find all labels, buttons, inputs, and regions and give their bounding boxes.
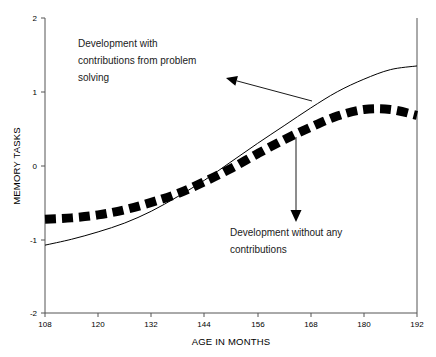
- x-tick-label-108: 108: [38, 320, 52, 329]
- y-tick-label-m1: -1: [30, 236, 38, 245]
- x-tick-label-180: 180: [357, 320, 371, 329]
- y-tick-label-1: 1: [33, 88, 38, 97]
- x-tick-label-132: 132: [144, 320, 158, 329]
- chart-canvas: 2 1 0 -1 -2 108 120 132 144 156 168 180 …: [0, 0, 436, 357]
- annotation-upper-line-3: solving: [78, 72, 109, 83]
- y-tick-label-0: 0: [33, 162, 38, 171]
- annotation-lower-line-2: contributions: [230, 244, 287, 255]
- annotation-lower-line-1: Development without any: [230, 227, 342, 238]
- annotation-upper-line-1: Development with: [78, 38, 157, 49]
- x-tick-label-168: 168: [304, 320, 318, 329]
- x-tick-label-156: 156: [251, 320, 265, 329]
- y-axis-title: MEMORY TASKS: [11, 127, 22, 205]
- annotation-upper-line-2: contributions from problem: [78, 55, 196, 66]
- chart-figure: 2 1 0 -1 -2 108 120 132 144 156 168 180 …: [0, 0, 436, 357]
- x-tick-label-192: 192: [410, 320, 424, 329]
- x-tick-label-144: 144: [197, 320, 211, 329]
- x-tick-label-120: 120: [91, 320, 105, 329]
- y-tick-label-2: 2: [33, 14, 38, 23]
- x-axis-title: AGE IN MONTHS: [192, 336, 271, 347]
- y-tick-label-m2: -2: [30, 309, 38, 318]
